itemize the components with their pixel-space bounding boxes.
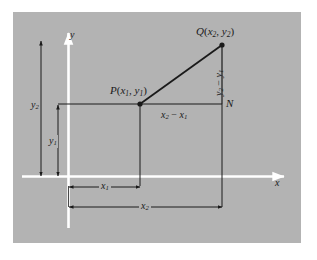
axis-group [22, 33, 284, 228]
construction-lines [58, 104, 222, 207]
point-n-label: N [226, 98, 233, 109]
point-q-dot [219, 42, 224, 47]
triangle-pqn [140, 45, 222, 104]
point-q-label: Q(x2, y2) [196, 26, 234, 38]
vertical-dimension-arrows [41, 41, 58, 176]
horizontal-leg-label: x2 − x1 [161, 110, 187, 121]
point-p-dot [137, 101, 142, 106]
y-axis-label: y [70, 30, 74, 40]
point-p-label: P(x1, y1) [110, 85, 147, 97]
figure-page: P(x1, y1) Q(x2, y2) N x2 − x1 y2 − y1 y … [0, 0, 317, 260]
hypotenuse-pq [140, 45, 222, 104]
diagram-graphics [0, 0, 317, 260]
dimension-x2-label: x2 [139, 201, 151, 212]
dimension-x1-label: x1 [99, 181, 111, 192]
vertical-leg-label: y2 − y1 [214, 70, 225, 96]
dimension-y1-label: y1 [48, 135, 58, 148]
dimension-y2-label: y2 [30, 99, 40, 112]
x-axis-label: x [275, 178, 279, 188]
